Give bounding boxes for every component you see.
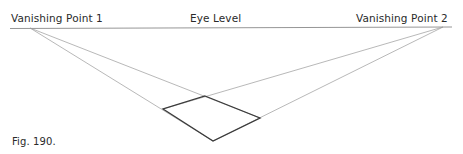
- horizon-line: [10, 27, 452, 29]
- figure-caption: Fig. 190.: [12, 136, 56, 147]
- vanishing-point-2-label: Vanishing Point 2: [356, 12, 448, 24]
- perspective-square: [163, 96, 260, 141]
- vanishing-point-1-label: Vanishing Point 1: [11, 12, 103, 24]
- eye-level-label: Eye Level: [190, 12, 241, 24]
